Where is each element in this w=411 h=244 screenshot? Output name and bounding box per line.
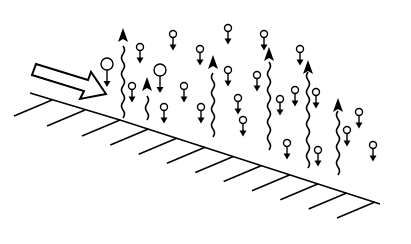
rising-arrow-icon xyxy=(208,55,218,137)
falling-particle-icon xyxy=(197,46,204,66)
hatch-mark xyxy=(139,138,177,154)
rising-arrow-icon xyxy=(118,28,128,118)
incident-flow-arrow-icon xyxy=(32,64,106,99)
falling-particle-icon xyxy=(129,83,136,103)
falling-particle-icon xyxy=(154,64,166,93)
falling-particle-icon xyxy=(225,67,232,87)
hatch-mark xyxy=(309,193,347,209)
falling-particles xyxy=(101,25,377,167)
falling-particle-icon xyxy=(344,127,351,147)
inclined-surface xyxy=(14,93,380,218)
falling-particle-icon xyxy=(235,95,242,115)
hatch-mark xyxy=(195,156,233,172)
surface-line xyxy=(30,93,380,204)
hatch-mark xyxy=(110,129,148,145)
incident-arrow-shape xyxy=(32,64,106,99)
falling-particle-icon xyxy=(137,44,144,64)
falling-particle-icon xyxy=(277,96,284,116)
rising-wavy-arrows xyxy=(118,28,343,175)
falling-particle-icon xyxy=(315,147,322,167)
falling-particle-icon xyxy=(261,31,268,51)
falling-particle-icon xyxy=(370,142,377,162)
rising-arrow-icon xyxy=(264,47,274,150)
hatch-mark xyxy=(337,202,375,218)
hatch-mark xyxy=(280,184,318,200)
diagram-canvas xyxy=(0,0,411,244)
falling-particle-icon xyxy=(254,72,261,92)
hatch-mark xyxy=(14,100,52,116)
hatch-mark xyxy=(47,110,85,126)
falling-particle-icon xyxy=(240,117,247,137)
falling-particle-icon xyxy=(292,87,299,107)
rising-arrow-icon xyxy=(333,98,343,175)
hatch-mark xyxy=(252,175,290,191)
falling-particle-icon xyxy=(297,46,304,66)
falling-particle-icon xyxy=(161,104,168,124)
falling-particle-icon xyxy=(356,109,363,129)
rising-arrow-icon xyxy=(303,60,313,168)
falling-particle-icon xyxy=(313,89,320,109)
hatch-mark xyxy=(167,147,205,163)
hatch-mark xyxy=(224,166,262,182)
hatch-mark xyxy=(82,120,120,136)
falling-particle-icon xyxy=(284,140,291,160)
falling-particle-icon xyxy=(198,104,205,124)
falling-particle-icon xyxy=(170,31,177,51)
falling-particle-icon xyxy=(181,83,188,103)
falling-particle-icon xyxy=(101,58,113,87)
falling-particle-icon xyxy=(225,25,232,45)
rising-arrow-icon xyxy=(142,77,152,120)
